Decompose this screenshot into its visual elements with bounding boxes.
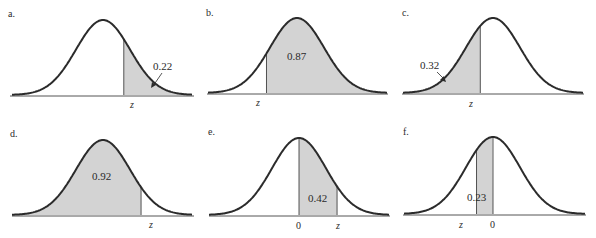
area-value-label: 0.87: [287, 50, 307, 62]
area-value-label: 0.32: [420, 59, 439, 71]
panel-a: a. 0.22 z: [8, 8, 194, 110]
area-value-label: 0.22: [153, 60, 172, 72]
panel-c: c. 0.32 z: [402, 7, 584, 109]
panel-f: f. 0.23 z 0: [403, 126, 586, 230]
shaded-region: [12, 140, 141, 215]
area-value-label: 0.92: [92, 170, 111, 182]
z-tick-label: z: [468, 98, 473, 109]
area-value-label: 0.23: [467, 191, 487, 203]
normal-curve: [403, 18, 583, 93]
panel-label: d.: [10, 128, 18, 139]
z-tick-label: z: [255, 97, 260, 108]
panel-label: a.: [8, 8, 15, 19]
z-tick-label: z: [148, 219, 153, 230]
area-value-label: 0.42: [308, 192, 327, 204]
zero-tick-label: 0: [296, 220, 301, 231]
normal-curve: [12, 20, 192, 95]
panel-b: b. 0.87 z: [206, 7, 388, 108]
panel-label: b.: [206, 7, 214, 18]
normal-curves-figure: a. 0.22 z b. 0.87 z c. 0.32 z: [0, 0, 596, 238]
z-tick-label: z: [129, 99, 134, 110]
shaded-region: [403, 26, 480, 93]
panel-label: c.: [402, 7, 409, 18]
normal-curve: [404, 137, 585, 214]
z-tick-label: z: [335, 220, 340, 231]
shaded-region: [266, 18, 387, 93]
panel-label: e.: [208, 126, 215, 137]
panel-e: e. 0.42 0 z: [208, 126, 390, 231]
zero-tick-label: 0: [490, 219, 495, 230]
panel-label: f.: [403, 126, 409, 137]
z-tick-label: z: [458, 219, 463, 230]
panel-d: d. 0.92 z: [10, 128, 194, 230]
